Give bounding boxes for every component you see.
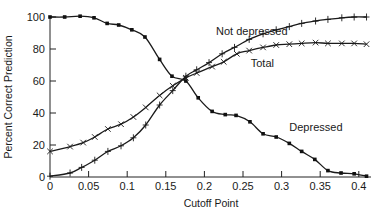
- x-marker: [234, 51, 240, 57]
- y-tick-label: 0: [39, 171, 45, 183]
- y-tick-label: 80: [33, 43, 45, 55]
- dot-marker: [130, 28, 134, 32]
- dot-marker: [234, 114, 238, 118]
- x-marker: [143, 105, 149, 111]
- x-tick-label: 0.1: [120, 180, 135, 192]
- dot-marker: [117, 23, 121, 27]
- series-depressed: [48, 14, 368, 178]
- dot-marker: [105, 22, 109, 26]
- dot-marker: [248, 120, 252, 124]
- dot-marker: [352, 172, 356, 176]
- x-tick-label: 0: [47, 180, 53, 192]
- y-tick-label: 20: [33, 139, 45, 151]
- dot-marker: [92, 16, 96, 20]
- y-tick-label: 40: [33, 107, 45, 119]
- series-total: [47, 40, 369, 154]
- dot-marker: [143, 35, 147, 39]
- plus-marker: [105, 148, 111, 155]
- line-chart: 00.050.10.150.20.250.30.350.4 0204060801…: [0, 0, 388, 213]
- plus-marker: [351, 14, 357, 21]
- dot-marker: [274, 135, 278, 139]
- dot-marker: [63, 15, 67, 19]
- x-marker: [131, 114, 137, 120]
- y-axis-ticks: 020406080100: [27, 11, 56, 183]
- series-group: [47, 14, 370, 180]
- dot-marker: [300, 150, 304, 154]
- plus-marker: [232, 44, 238, 51]
- dot-marker: [313, 158, 317, 162]
- series-not-depressed: [47, 14, 370, 180]
- plus-marker: [339, 14, 345, 21]
- series-line: [50, 43, 367, 152]
- plus-marker: [79, 164, 85, 171]
- series-label-total: Total: [251, 57, 274, 69]
- dot-marker: [170, 74, 174, 78]
- x-marker: [92, 134, 98, 140]
- x-marker: [221, 59, 227, 65]
- x-tick-label: 0.2: [197, 180, 212, 192]
- plus-marker: [313, 18, 319, 25]
- dot-marker: [78, 14, 82, 18]
- series-line: [50, 17, 367, 176]
- plus-marker: [67, 170, 73, 177]
- dot-marker: [196, 96, 200, 100]
- y-axis-label: Percent Correct Prediction: [2, 35, 14, 158]
- x-marker: [157, 93, 163, 99]
- dot-marker: [288, 142, 292, 146]
- dot-marker: [158, 58, 162, 62]
- axes: [50, 17, 371, 177]
- x-marker: [105, 126, 111, 132]
- x-marker: [118, 121, 124, 127]
- x-tick-label: 0.4: [351, 180, 366, 192]
- x-tick-label: 0.3: [274, 180, 289, 192]
- plus-marker: [246, 36, 252, 43]
- plus-marker: [364, 14, 370, 21]
- series-label-depressed: Depressed: [289, 121, 342, 133]
- series-label-not-depressed: Not depressed: [216, 25, 288, 37]
- x-tick-label: 0.05: [78, 180, 99, 192]
- dot-marker: [365, 174, 369, 178]
- dot-marker: [261, 132, 265, 136]
- x-axis-ticks: 00.050.10.150.20.250.30.350.4: [47, 171, 367, 192]
- plus-marker: [325, 16, 331, 23]
- dot-marker: [339, 171, 343, 175]
- x-tick-label: 0.15: [155, 180, 176, 192]
- plus-marker: [92, 157, 98, 164]
- x-marker: [209, 64, 215, 70]
- plus-marker: [299, 20, 305, 27]
- y-tick-label: 60: [33, 75, 45, 87]
- x-tick-label: 0.25: [232, 180, 253, 192]
- plus-marker: [219, 50, 225, 57]
- dot-marker: [184, 79, 188, 83]
- series-line: [50, 16, 367, 176]
- dot-marker: [210, 110, 214, 114]
- dot-marker: [223, 113, 227, 117]
- y-tick-label: 100: [27, 11, 45, 23]
- dot-marker: [48, 15, 52, 19]
- x-tick-label: 0.35: [309, 180, 330, 192]
- x-axis-label: Cutoff Point: [184, 197, 239, 209]
- plus-marker: [47, 173, 53, 180]
- plus-marker: [118, 142, 124, 149]
- dot-marker: [326, 169, 330, 173]
- x-marker: [80, 140, 86, 146]
